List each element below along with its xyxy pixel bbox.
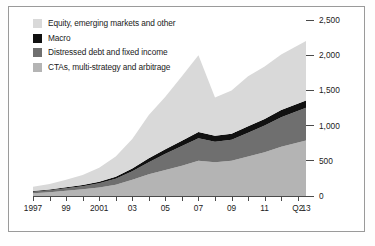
y-axis-labels: 05001,0001,5002,0002,500 [306, 20, 366, 196]
x-tick-2009 [232, 196, 233, 201]
x-tick-2008 [215, 196, 216, 201]
x-tick-2010 [248, 196, 249, 201]
x-tick-2011 [265, 196, 266, 201]
y-tick-label: 2,000 [319, 50, 340, 60]
x-label-99: 99 [61, 203, 70, 214]
x-tick-2002 [116, 196, 117, 201]
x-label-11: 11 [260, 203, 269, 214]
y-tick-mark [306, 125, 314, 126]
y-tick-mark [306, 196, 314, 197]
y-tick-0: 0 [306, 191, 324, 201]
y-tick-label: 0 [319, 191, 324, 201]
y-tick-mark [306, 160, 314, 161]
y-tick-2500: 2,500 [306, 15, 340, 25]
x-tick-2013 [298, 196, 299, 201]
x-tick-1999 [66, 196, 67, 201]
plot-area [33, 20, 306, 196]
x-label-1997: 1997 [24, 203, 42, 214]
y-tick-500: 500 [306, 156, 333, 166]
x-tick-1997 [33, 196, 34, 201]
x-tick-2001 [99, 196, 100, 201]
x-tick-2006 [182, 196, 183, 201]
y-tick-label: 1,500 [319, 85, 340, 95]
x-tick-1998 [50, 196, 51, 201]
x-axis-ticks [33, 196, 306, 201]
x-label-07: 07 [194, 203, 203, 214]
x-tick-2012 [281, 196, 282, 201]
y-tick-label: 2,500 [319, 15, 340, 25]
x-label-2001: 2001 [90, 203, 108, 214]
x-label-09: 09 [227, 203, 236, 214]
x-axis-labels: 19979920010305070911Q213 [0, 203, 375, 217]
x-label-03: 03 [128, 203, 137, 214]
y-tick-1500: 1,500 [306, 85, 340, 95]
x-label-05: 05 [161, 203, 170, 214]
x-tick-2004 [149, 196, 150, 201]
y-tick-1000: 1,000 [306, 121, 340, 131]
chart-figure: Equity, emerging markets and other Macro… [0, 0, 375, 246]
x-tick-2007 [198, 196, 199, 201]
x-tick-2003 [132, 196, 133, 201]
y-tick-label: 1,000 [319, 121, 340, 131]
y-tick-mark [306, 90, 314, 91]
y-tick-mark [306, 20, 314, 21]
x-tick-2000 [83, 196, 84, 201]
x-tick-2005 [165, 196, 166, 201]
y-tick-mark [306, 55, 314, 56]
y-tick-2000: 2,000 [306, 50, 340, 60]
y-tick-label: 500 [319, 156, 333, 166]
stacked-area-series [33, 20, 306, 196]
x-label-13: 13 [301, 203, 310, 214]
